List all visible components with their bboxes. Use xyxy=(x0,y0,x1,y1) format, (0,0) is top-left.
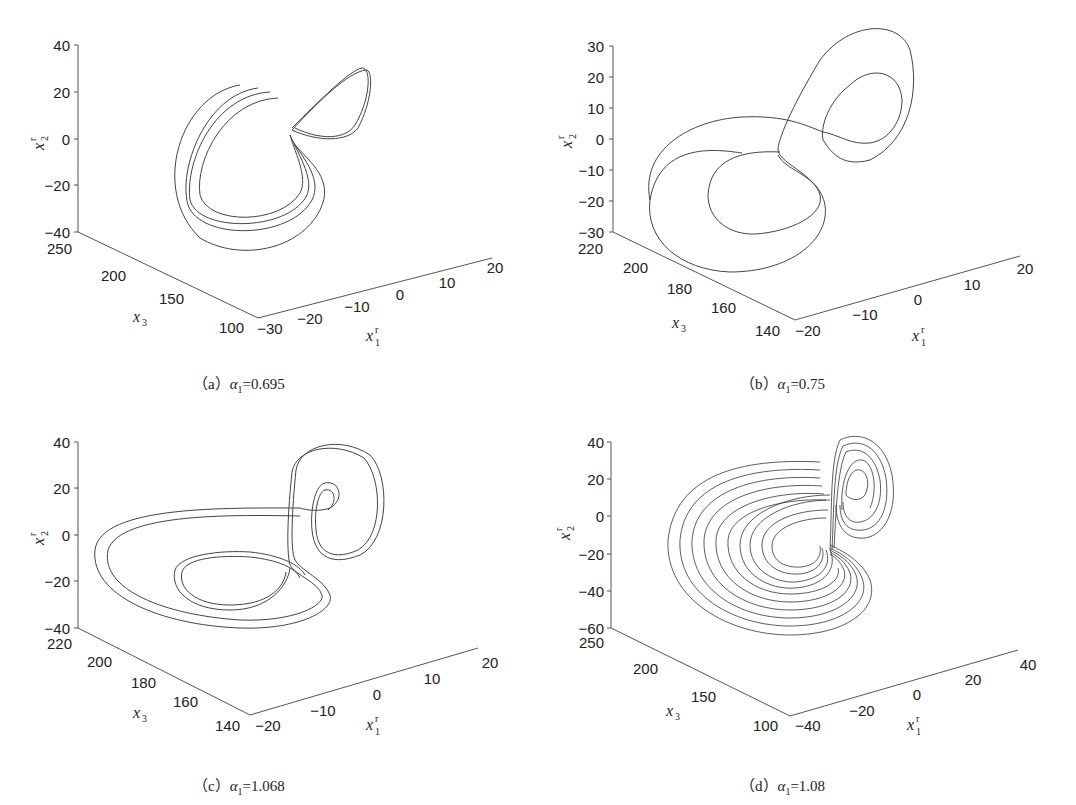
caption-a: （a）α1=0.695 xyxy=(193,372,285,395)
svg-text:200: 200 xyxy=(87,653,112,670)
axes-d xyxy=(611,442,1018,716)
caption-c: （c）α1=1.068 xyxy=(193,774,285,797)
z-label-b: x2r xyxy=(555,134,578,149)
svg-text:x: x xyxy=(365,716,373,733)
svg-text:−10: −10 xyxy=(344,298,369,315)
svg-text:40: 40 xyxy=(53,434,70,451)
svg-text:0: 0 xyxy=(373,686,381,703)
plot-d-canvas: 40 20 0 −20 −40 −60 250 200 150 100 −40 … xyxy=(540,400,1076,805)
svg-text:−10: −10 xyxy=(310,702,335,719)
z-label-a: x2r xyxy=(27,136,50,151)
svg-text:160: 160 xyxy=(173,693,198,710)
svg-text:x: x xyxy=(906,716,914,733)
svg-text:0: 0 xyxy=(596,508,604,525)
z-label-d: x2r xyxy=(553,526,576,541)
svg-text:20: 20 xyxy=(965,671,982,688)
x1-label-b: x1r xyxy=(911,324,926,348)
svg-text:10: 10 xyxy=(439,274,456,291)
subplot-a: 40 20 0 −20 −40 250 200 150 100 −30 −20 … xyxy=(0,0,540,400)
svg-text:2: 2 xyxy=(39,531,50,536)
svg-text:r: r xyxy=(553,527,564,531)
svg-text:200: 200 xyxy=(623,259,648,276)
svg-text:140: 140 xyxy=(755,322,780,339)
svg-text:10: 10 xyxy=(964,276,981,293)
svg-text:140: 140 xyxy=(215,717,240,734)
svg-text:−20: −20 xyxy=(579,546,604,563)
svg-text:20: 20 xyxy=(53,480,70,497)
svg-text:20: 20 xyxy=(1017,260,1034,277)
svg-text:0: 0 xyxy=(62,527,70,544)
svg-text:x: x xyxy=(911,327,919,344)
svg-text:r: r xyxy=(916,713,920,724)
plot-c-canvas: 40 20 0 −20 −40 220 200 180 160 140 −20 … xyxy=(0,400,540,805)
svg-text:−40: −40 xyxy=(579,583,604,600)
svg-text:1: 1 xyxy=(375,726,380,737)
svg-text:r: r xyxy=(555,135,566,139)
svg-text:20: 20 xyxy=(487,259,504,276)
svg-text:20: 20 xyxy=(53,84,70,101)
svg-text:250: 250 xyxy=(47,240,72,257)
svg-text:40: 40 xyxy=(53,37,70,54)
svg-text:r: r xyxy=(27,137,38,141)
svg-text:x: x xyxy=(665,702,673,719)
subplot-c: 40 20 0 −20 −40 220 200 180 160 140 −20 … xyxy=(0,400,540,805)
svg-text:0: 0 xyxy=(913,686,921,703)
svg-text:−20: −20 xyxy=(849,702,874,719)
svg-text:x: x xyxy=(556,533,573,541)
svg-text:−30: −30 xyxy=(257,320,282,337)
svg-text:−10: −10 xyxy=(579,162,604,179)
svg-text:40: 40 xyxy=(1020,656,1037,673)
svg-text:20: 20 xyxy=(587,471,604,488)
caption-d: （d）α1=1.08 xyxy=(740,774,825,797)
svg-text:2: 2 xyxy=(565,526,576,531)
svg-text:200: 200 xyxy=(633,660,658,677)
svg-text:20: 20 xyxy=(482,654,499,671)
svg-text:r: r xyxy=(921,324,925,335)
svg-text:1: 1 xyxy=(916,726,921,737)
plot-b-canvas: 30 20 10 0 −10 −20 −30 220 200 180 160 1… xyxy=(540,0,1076,400)
svg-text:10: 10 xyxy=(424,670,441,687)
svg-text:150: 150 xyxy=(159,290,184,307)
svg-text:0: 0 xyxy=(914,291,922,308)
svg-text:3: 3 xyxy=(142,713,147,724)
svg-text:x: x xyxy=(365,327,373,344)
svg-text:0: 0 xyxy=(596,131,604,148)
svg-text:0: 0 xyxy=(396,286,404,303)
x3-label-d: x3 xyxy=(665,702,680,722)
svg-text:2: 2 xyxy=(39,136,50,141)
svg-text:0: 0 xyxy=(62,131,70,148)
z-ticks-b: 30 20 10 0 −10 −20 −30 xyxy=(579,38,613,241)
x1-ticks-a: −30 −20 −10 0 10 20 xyxy=(257,259,503,337)
svg-text:220: 220 xyxy=(47,635,72,652)
svg-text:30: 30 xyxy=(587,38,604,55)
x3-label-a: x3 xyxy=(132,308,147,328)
subplot-d: 40 20 0 −20 −40 −60 250 200 150 100 −40 … xyxy=(540,400,1076,805)
caption-b: （b）α1=0.75 xyxy=(740,372,825,395)
svg-text:−20: −20 xyxy=(45,573,70,590)
svg-text:180: 180 xyxy=(131,674,156,691)
x1-label-a: x1r xyxy=(365,324,380,348)
svg-text:160: 160 xyxy=(711,299,736,316)
x3-label-c: x3 xyxy=(132,704,147,724)
svg-text:40: 40 xyxy=(587,434,604,451)
svg-text:250: 250 xyxy=(579,634,604,651)
svg-text:−20: −20 xyxy=(579,193,604,210)
x1-label-d: x1r xyxy=(906,713,921,737)
trajectory-a xyxy=(175,68,371,250)
svg-text:−20: −20 xyxy=(297,310,322,327)
svg-text:3: 3 xyxy=(681,323,686,334)
svg-text:−30: −30 xyxy=(579,224,604,241)
svg-text:x: x xyxy=(132,704,140,721)
svg-text:x: x xyxy=(558,141,575,149)
trajectory-b xyxy=(649,29,914,272)
trajectory-c xyxy=(95,444,384,628)
svg-text:−20: −20 xyxy=(45,177,70,194)
svg-text:100: 100 xyxy=(219,319,244,336)
svg-text:r: r xyxy=(375,713,379,724)
svg-text:r: r xyxy=(27,532,38,536)
svg-text:1: 1 xyxy=(375,337,380,348)
svg-text:20: 20 xyxy=(587,69,604,86)
x1-label-c: x1r xyxy=(365,713,380,737)
x3-label-b: x3 xyxy=(671,314,686,334)
subplot-b: 30 20 10 0 −10 −20 −30 220 200 180 160 1… xyxy=(540,0,1076,400)
